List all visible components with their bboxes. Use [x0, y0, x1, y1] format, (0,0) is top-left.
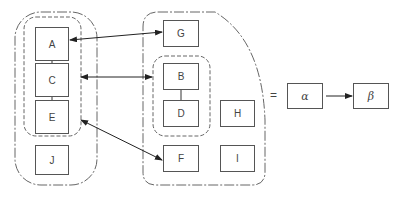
node-label: β [368, 90, 374, 103]
node-h: H [220, 100, 255, 127]
node-label: A [49, 39, 56, 50]
node-label: I [236, 153, 239, 164]
node-label: H [234, 108, 241, 119]
node-beta: β [353, 83, 389, 109]
node-alpha: α [287, 83, 323, 109]
arrow-e-f [81, 120, 162, 160]
arrow-a-g [70, 32, 162, 40]
node-label: J [50, 155, 55, 166]
node-b: B [163, 63, 199, 90]
node-label: G [177, 28, 185, 39]
node-label: F [178, 153, 184, 164]
node-g: G [163, 20, 199, 47]
node-d: D [163, 100, 199, 127]
node-label: E [49, 112, 56, 123]
node-label: C [48, 75, 55, 86]
node-i: I [220, 145, 255, 172]
node-label: D [177, 108, 184, 119]
node-e: E [35, 100, 69, 134]
node-a: A [35, 27, 69, 61]
node-f: F [163, 145, 199, 172]
node-label: B [178, 71, 185, 82]
node-j: J [35, 145, 69, 175]
node-c: C [35, 63, 69, 97]
node-label: α [301, 90, 308, 103]
equals-sign: = [270, 88, 277, 102]
